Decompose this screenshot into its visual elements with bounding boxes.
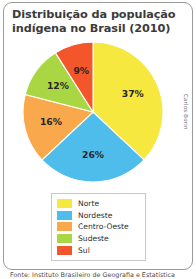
pie-slices — [23, 42, 163, 182]
pie-slice-value: 26% — [82, 149, 104, 160]
page-title: Distribuição da população indígena no Br… — [12, 8, 184, 36]
pie-slice-value: 9% — [73, 65, 89, 76]
pie-chart: 37%26%16%12%9% — [21, 40, 165, 184]
chart-legend: Norte Nordeste Centro-Oeste Sudeste Sul — [51, 193, 146, 261]
pie-chart-area: 37%26%16%12%9% Carlos Borin — [3, 38, 193, 188]
legend-swatch-nordeste — [57, 211, 72, 220]
legend-swatch-norte — [57, 199, 72, 208]
legend-label: Sudeste — [78, 234, 109, 243]
legend-item: Sul — [57, 244, 140, 256]
legend-item: Norte — [57, 198, 140, 210]
infographic-card: Distribuição da população indígena no Br… — [0, 0, 196, 279]
pie-svg: 37%26%16%12%9% — [21, 40, 165, 184]
legend-swatch-sudeste — [57, 234, 72, 243]
legend-item: Nordeste — [57, 210, 140, 222]
legend-label: Sul — [78, 246, 90, 255]
photo-credit: Carlos Borin — [183, 94, 189, 130]
pie-slice-value: 12% — [47, 80, 69, 91]
legend-label: Nordeste — [78, 211, 112, 220]
legend-swatch-centro-oeste — [57, 222, 72, 231]
legend-item: Centro-Oeste — [57, 221, 140, 233]
legend-label: Centro-Oeste — [78, 222, 129, 231]
legend-label: Norte — [78, 199, 99, 208]
legend-swatch-sul — [57, 246, 72, 255]
pie-slice-value: 16% — [40, 116, 62, 127]
source-caption: Fonte: Instituto Brasileiro de Geografia… — [10, 272, 190, 279]
legend-item: Sudeste — [57, 233, 140, 245]
pie-slice-value: 37% — [122, 88, 144, 99]
